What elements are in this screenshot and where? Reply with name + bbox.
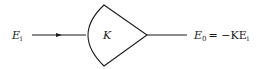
diagram-svg: Ei K E0= −KEi [0, 0, 262, 69]
input-label: Ei [11, 29, 23, 43]
amplifier-block [88, 5, 147, 66]
gain-label: K [102, 29, 112, 42]
output-equation: E0= −KEi [193, 29, 250, 43]
arrow-head-icon [56, 33, 62, 37]
amplifier-diagram: Ei K E0= −KEi [0, 0, 262, 69]
